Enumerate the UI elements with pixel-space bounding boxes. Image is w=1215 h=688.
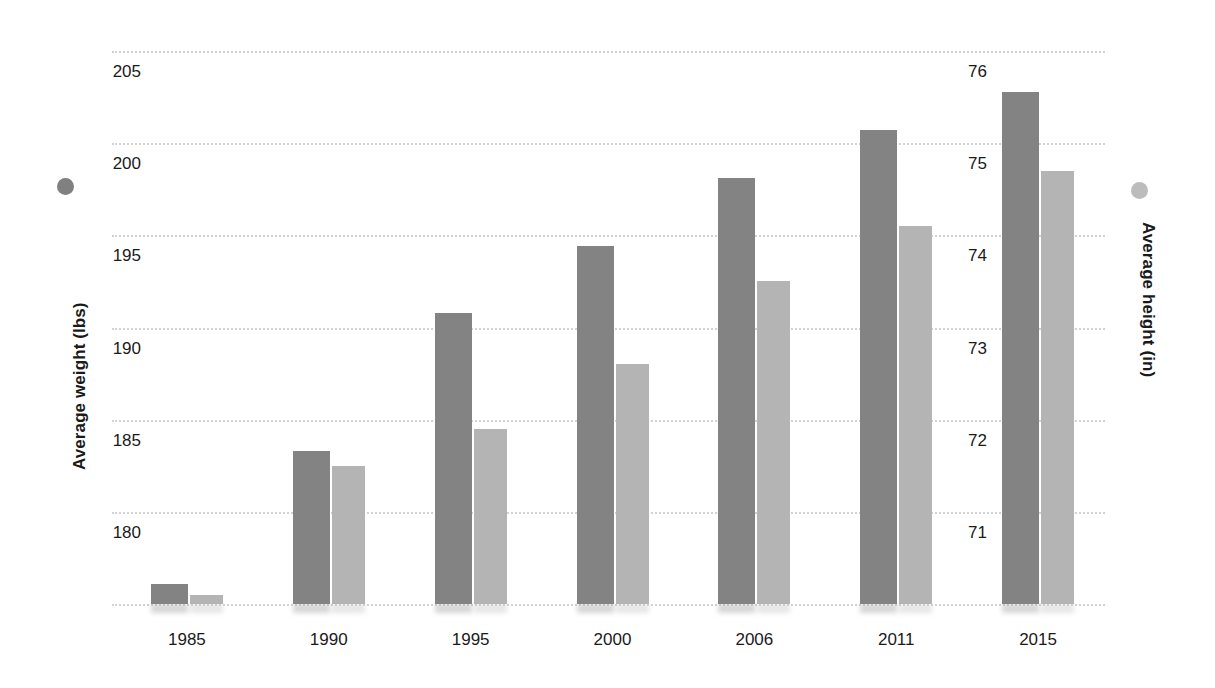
bar-average-height-1985[interactable]: [190, 595, 223, 604]
bar-group-2006: [718, 51, 790, 604]
bar-shadow-height-2011: [899, 604, 932, 613]
bar-average-weight-1985[interactable]: [151, 584, 188, 604]
bar-group-2015: [1002, 51, 1074, 604]
right-axis-tick-76: 76: [968, 62, 1028, 82]
bar-average-weight-1995[interactable]: [435, 313, 472, 604]
x-axis-label-1990: 1990: [284, 630, 374, 650]
bar-average-height-2006[interactable]: [757, 281, 790, 604]
bar-average-weight-2006[interactable]: [718, 178, 755, 604]
right-axis-tick-75: 75: [968, 154, 1028, 174]
right-axis-title: Average height (in): [1134, 222, 1158, 552]
legend-dot-average-height: [1131, 182, 1148, 199]
right-axis-tick-71: 71: [968, 523, 1028, 543]
bar-group-1990: [293, 51, 365, 604]
plot-area: [112, 51, 1105, 604]
left-axis-title: Average weight (lbs): [70, 140, 94, 470]
bar-average-height-2000[interactable]: [616, 364, 649, 604]
left-axis-tick-200: 200: [81, 154, 141, 174]
bar-shadow-height-2015: [1041, 604, 1074, 613]
left-axis-tick-180: 180: [81, 523, 141, 543]
bar-average-weight-2011[interactable]: [860, 130, 897, 604]
bar-average-weight-1990[interactable]: [293, 451, 330, 604]
bar-shadow-weight-2011: [860, 604, 897, 613]
x-axis-label-2011: 2011: [851, 630, 941, 650]
left-axis-tick-185: 185: [81, 431, 141, 451]
bar-shadow-height-1990: [332, 604, 365, 613]
x-axis-label-2015: 2015: [993, 630, 1083, 650]
bar-shadow-weight-2015: [1002, 604, 1039, 613]
bar-shadow-height-2000: [616, 604, 649, 613]
bar-average-weight-2000[interactable]: [577, 246, 614, 604]
right-axis-tick-72: 72: [968, 431, 1028, 451]
bar-group-2011: [860, 51, 932, 604]
left-axis-tick-205: 205: [81, 62, 141, 82]
bar-average-height-1995[interactable]: [474, 429, 507, 604]
bar-group-1985: [151, 51, 223, 604]
bar-shadow-weight-2006: [718, 604, 755, 613]
x-axis-label-1995: 1995: [426, 630, 516, 650]
right-axis-tick-73: 73: [968, 339, 1028, 359]
bar-average-height-2011[interactable]: [899, 226, 932, 604]
chart-container: Average weight (lbs) Average height (in)…: [0, 0, 1215, 688]
bar-shadow-weight-1990: [293, 604, 330, 613]
bar-shadow-weight-2000: [577, 604, 614, 613]
x-axis-label-1985: 1985: [142, 630, 232, 650]
bar-group-2000: [577, 51, 649, 604]
bars-layer: [112, 51, 1105, 604]
bar-average-height-1990[interactable]: [332, 466, 365, 604]
left-axis-tick-190: 190: [81, 339, 141, 359]
bar-average-height-2015[interactable]: [1041, 171, 1074, 604]
right-axis-tick-74: 74: [968, 246, 1028, 266]
bar-group-1995: [435, 51, 507, 604]
bar-shadow-height-2006: [757, 604, 790, 613]
left-axis-tick-195: 195: [81, 246, 141, 266]
bar-shadow-weight-1995: [435, 604, 472, 613]
x-axis-label-2006: 2006: [709, 630, 799, 650]
x-axis-label-2000: 2000: [568, 630, 658, 650]
bar-shadow-height-1985: [190, 604, 223, 613]
bar-shadow-height-1995: [474, 604, 507, 613]
bar-shadow-weight-1985: [151, 604, 188, 613]
